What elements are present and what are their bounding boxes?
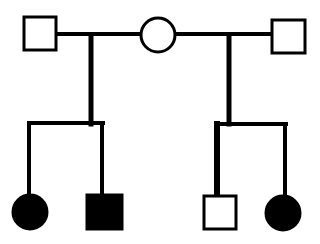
female-unaffected-symbol <box>141 18 175 52</box>
male-affected-symbol <box>87 195 122 229</box>
male-unaffected-symbol <box>24 17 56 50</box>
male-unaffected-symbol <box>204 196 236 229</box>
pedigree-diagram <box>0 0 320 244</box>
male-unaffected-symbol <box>272 20 305 53</box>
female-affected-symbol <box>13 195 47 229</box>
female-affected-symbol <box>266 196 300 230</box>
